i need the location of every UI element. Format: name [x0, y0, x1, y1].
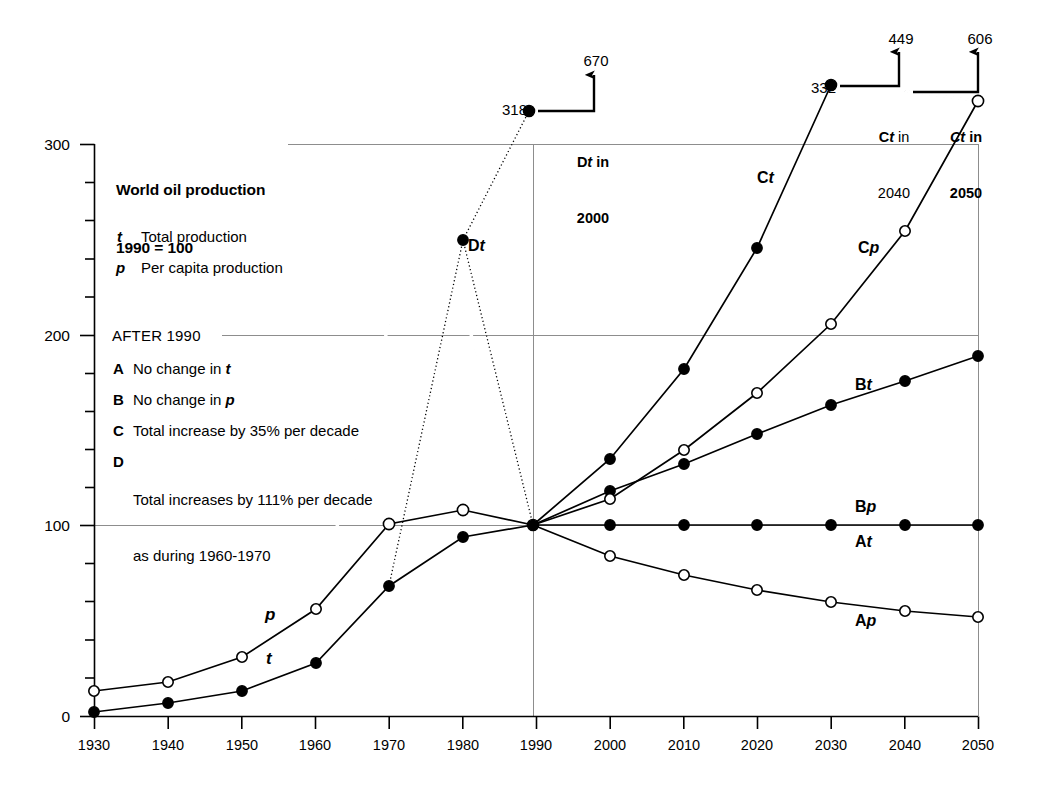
x-axis	[94, 717, 979, 730]
xtick-label-2020: 2020	[727, 736, 787, 754]
curve-label-Ap: Ap	[855, 611, 876, 631]
marker-At-2000	[605, 520, 615, 530]
marker-Bt-2010	[679, 459, 689, 469]
ann-ct40-bold: C	[879, 129, 889, 145]
scenario-text-A-pre: No change in	[133, 360, 226, 377]
key-symbol-t: t	[117, 228, 122, 247]
marker-t-1940	[163, 698, 173, 708]
marker-Bt-2030	[826, 400, 836, 410]
arrowvalue-dt-2000: 670	[566, 52, 626, 71]
key-label-p: Per capita production	[141, 259, 283, 278]
curve-label-Cp-bold: C	[858, 239, 870, 256]
marker-At-2050	[973, 520, 983, 530]
scenario-letter-D: D	[113, 453, 124, 472]
ann-ct40-reg: in	[894, 129, 909, 145]
after-1990-header: AFTER 1990	[112, 327, 201, 346]
scenario-text-D: Total increases by 111% per decade as du…	[133, 453, 373, 603]
curve-label-Ap-it: p	[867, 612, 877, 629]
marker-Ct-2010	[679, 364, 689, 374]
curve-label-Ct-bold: C	[757, 169, 769, 186]
curve-label-Cp-it: p	[870, 239, 880, 256]
marker-t-1970	[384, 581, 394, 591]
scenario-text-A-sym: t	[226, 360, 231, 377]
marker-Cp-2030	[826, 319, 836, 329]
scenario-text-C: Total increase by 35% per decade	[133, 422, 359, 441]
curve-label-Bp: Bp	[855, 497, 876, 517]
ann-ct50-bold: C	[950, 129, 960, 145]
endvalue-dt-2000: 318	[481, 101, 527, 120]
curve-label-Dt-it: t	[480, 237, 485, 254]
curve-label-Bt: Bt	[855, 375, 872, 395]
marker-t-1960	[311, 658, 321, 668]
marker-p-1970	[383, 518, 394, 529]
curve-label-At-it: t	[867, 533, 872, 550]
marker-Ap-2000	[605, 551, 615, 561]
xtick-label-2000: 2000	[580, 736, 640, 754]
scenario-text-B-sym: p	[226, 391, 235, 408]
marker-p-1940	[163, 677, 173, 687]
marker-p-1960	[311, 604, 321, 614]
scenario-text-B: No change in p	[133, 391, 235, 410]
curve-label-Ap-bold: A	[855, 612, 867, 629]
endvalue-ct-2040: 332	[790, 79, 836, 98]
key-label-t: Total production	[141, 228, 247, 247]
xtick-label-1950: 1950	[212, 736, 272, 754]
xtick-label-1980: 1980	[433, 736, 493, 754]
curve-label-t-historical: t	[266, 648, 272, 669]
ytick-label-200: 200	[30, 326, 70, 345]
marker-Ct-2020	[752, 243, 762, 253]
scenario-letter-C: C	[113, 422, 124, 441]
curve-label-Bt-it: t	[867, 376, 872, 393]
xtick-label-2030: 2030	[801, 736, 861, 754]
marker-At-2020	[752, 520, 762, 530]
curve-label-At: At	[855, 532, 872, 552]
xtick-label-1960: 1960	[285, 736, 345, 754]
marker-Cp-2000	[605, 494, 615, 504]
arrowvalue-ct-2040: 449	[871, 30, 931, 49]
marker-Ap-2030	[826, 597, 836, 607]
scenario-text-A: No change in t	[133, 360, 231, 379]
marker-p-1980	[457, 504, 468, 515]
xtick-label-1970: 1970	[359, 736, 419, 754]
curve-label-Ct-it: t	[769, 169, 774, 186]
curve-label-Bt-bold: B	[855, 376, 867, 393]
ann-dt-bold: D	[577, 154, 587, 170]
arrow-dt-2000	[538, 75, 594, 111]
curve-label-Bp-bold: B	[855, 498, 867, 515]
arrow-ct-2040	[840, 52, 899, 86]
y-axis	[80, 144, 95, 717]
series-line-Bt	[533, 356, 978, 525]
xtick-label-2010: 2010	[654, 736, 714, 754]
marker-p-1930	[89, 686, 99, 696]
ann-dt-reg: in	[592, 154, 609, 170]
arrow-ct-2050	[913, 52, 978, 92]
scenario-text-D-line2: as during 1960-1970	[133, 547, 373, 566]
marker-t-1930	[89, 707, 99, 717]
curve-label-Bp-it: p	[867, 498, 877, 515]
key-symbol-p: p	[116, 259, 125, 278]
chart-figure: 300 200 100 0 1930 1940 1950 1960 1970 1…	[0, 0, 1045, 797]
curve-label-At-bold: A	[855, 533, 867, 550]
scenario-letter-B: B	[113, 391, 124, 410]
curve-label-Dt-bold: D	[468, 237, 480, 254]
marker-Ap-2020	[752, 585, 762, 595]
marker-Ap-2040	[900, 606, 910, 616]
ann-ct50-year: 2050	[923, 184, 1009, 203]
xtick-label-1990: 1990	[506, 736, 566, 754]
curve-label-Ct: Ct	[757, 168, 774, 188]
annotation-caption-dt-2000: Dt in 2000	[550, 116, 636, 264]
curve-label-Cp: Cp	[858, 238, 879, 258]
marker-Cp-2020	[752, 388, 762, 398]
marker-Bt-2020	[752, 429, 762, 439]
ann-ct50-reg: in	[965, 129, 982, 145]
marker-Dt-1980	[458, 235, 468, 245]
ytick-label-300: 300	[30, 135, 70, 154]
marker-Bt-2050	[973, 351, 983, 361]
marker-At-2040	[900, 520, 910, 530]
scenario-text-D-line1: Total increases by 111% per decade	[133, 491, 373, 510]
ytick-label-100: 100	[30, 516, 70, 535]
marker-At-2030	[826, 520, 836, 530]
marker-t-1950	[237, 686, 247, 696]
scenario-letter-A: A	[113, 360, 124, 379]
curve-label-Dt: Dt	[468, 236, 485, 256]
